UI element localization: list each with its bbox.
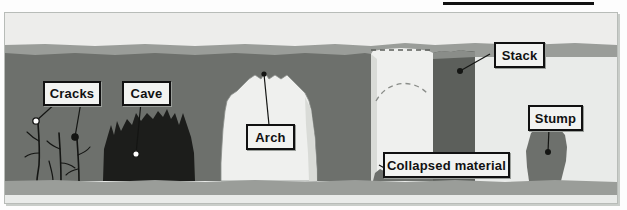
label-collapsed-material[interactable]: Collapsed material [383,152,510,178]
label-stack-text: Stack [502,49,538,62]
diagram-stage: Cracks Cave Arch Stack Stump Collapsed m… [0,0,627,210]
label-stump[interactable]: Stump [528,105,583,131]
label-cracks-text: Cracks [50,87,95,100]
label-stump-text: Stump [535,112,576,125]
label-cave[interactable]: Cave [122,81,171,106]
label-cave-text: Cave [131,87,163,100]
foreshore-ground [5,180,617,195]
coastal-erosion-figure: Cracks Cave Arch Stack Stump Collapsed m… [4,12,618,204]
gap-left-edge-shadow [371,54,377,181]
label-stack[interactable]: Stack [494,42,545,68]
label-arch[interactable]: Arch [246,124,295,150]
label-cracks[interactable]: Cracks [43,81,101,106]
label-collapsed-material-text: Collapsed material [387,159,506,172]
base-band [5,195,617,203]
label-arch-text: Arch [255,131,285,144]
top-rule-decoration [443,2,594,5]
